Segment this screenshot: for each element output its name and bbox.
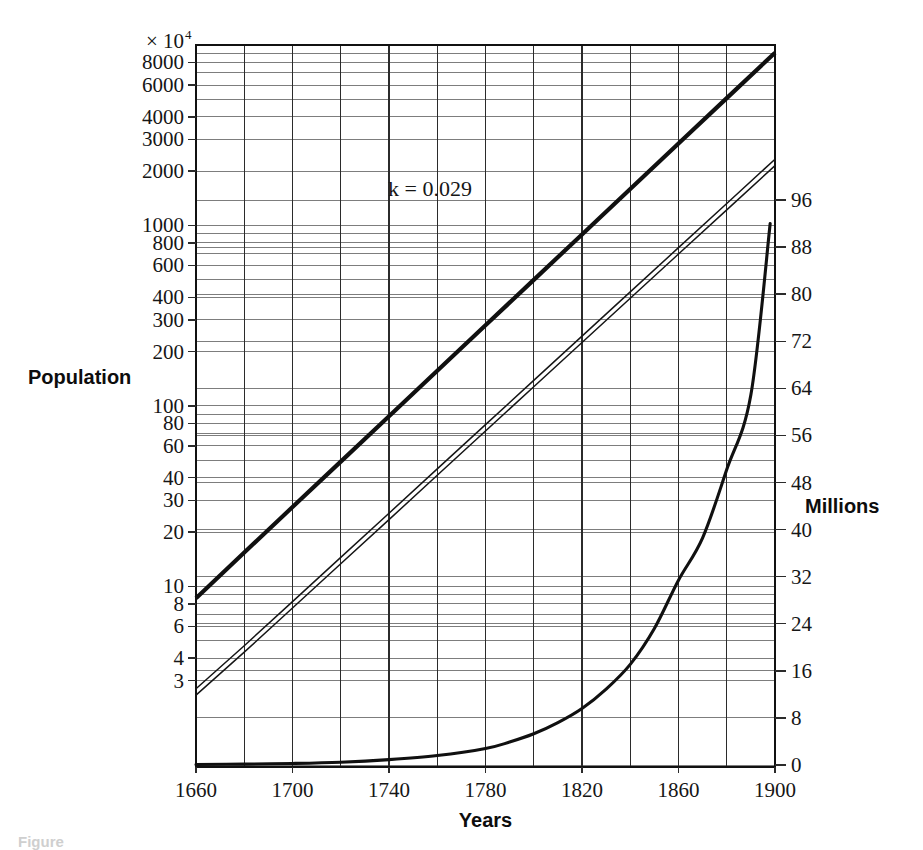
bottom-axis-title: Years [459, 809, 512, 831]
left-tick-label: 8 [174, 592, 185, 616]
left-tick-label: 300 [153, 308, 185, 332]
right-tick-label: 32 [791, 565, 812, 589]
bottom-tick-label: 1660 [175, 778, 217, 802]
left-tick-label: 400 [153, 285, 185, 309]
bottom-tick-label: 1700 [272, 778, 314, 802]
left-tick-label: 4000 [142, 105, 184, 129]
left-tick-label: 20 [163, 520, 184, 544]
left-tick-label: 4 [174, 646, 185, 670]
left-tick-label: 2000 [142, 159, 184, 183]
right-tick-label: 16 [791, 659, 812, 683]
left-tick-label: 200 [153, 340, 185, 364]
bottom-tick-label: 1860 [658, 778, 700, 802]
left-tick-label: 40 [163, 466, 184, 490]
left-tick-label: 800 [153, 231, 185, 255]
left-tick-label: 60 [163, 434, 184, 458]
right-tick-label: 0 [791, 753, 802, 777]
left-tick-label: 6 [174, 614, 185, 638]
left-tick-label: 6000 [142, 73, 184, 97]
left-tick-label: 3 [174, 669, 185, 693]
exponent-power: 4 [185, 27, 192, 42]
right-tick-label: 56 [791, 423, 812, 447]
bottom-tick-label: 1900 [754, 778, 796, 802]
bottom-tick-label: 1820 [561, 778, 603, 802]
right-tick-label: 48 [791, 471, 812, 495]
left-tick-label: 600 [153, 253, 185, 277]
right-tick-label: 8 [791, 706, 802, 730]
right-tick-label: 72 [791, 329, 812, 353]
bottom-tick-label: 1740 [368, 778, 410, 802]
left-tick-label: 80 [163, 411, 184, 435]
right-tick-label: 24 [791, 612, 813, 636]
bottom-tick-label: 1780 [465, 778, 507, 802]
left-axis-title: Population [28, 366, 131, 388]
annotation-growth-rate: k = 0.029 [388, 176, 472, 201]
right-tick-label: 80 [791, 282, 812, 306]
left-tick-label: 30 [163, 488, 184, 512]
right-tick-label: 96 [791, 188, 812, 212]
right-tick-label: 64 [791, 376, 813, 400]
right-tick-label: 88 [791, 235, 812, 259]
right-tick-label: 40 [791, 518, 812, 542]
left-tick-label: 8000 [142, 50, 184, 74]
left-tick-label: 3000 [142, 127, 184, 151]
exponent-base: × 10 [146, 29, 184, 53]
right-axis-title: Millions [805, 495, 879, 517]
figure-caption: Figure [18, 833, 64, 850]
